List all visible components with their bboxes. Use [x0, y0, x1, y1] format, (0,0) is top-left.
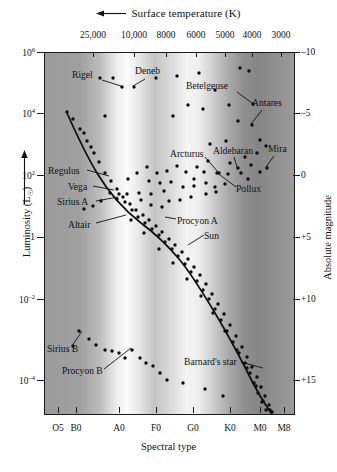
star-data-point: [169, 180, 172, 183]
star-data-point: [103, 114, 106, 117]
magnitude-tick-label: –5: [301, 108, 311, 118]
temperature-tick-label: 8000: [157, 30, 176, 40]
star-data-point: [250, 123, 253, 126]
magnitude-tick-mark: [293, 299, 300, 300]
annotation-vega: Vega: [68, 181, 87, 192]
magnitude-tick-label: +15: [301, 375, 316, 385]
star-data-point: [247, 69, 250, 72]
star-data-point: [158, 181, 161, 184]
star-data-point: [129, 218, 132, 221]
star-data-point: [202, 170, 205, 173]
star-data-point: [216, 302, 219, 305]
star-data-point: [145, 165, 148, 168]
temperature-tick-mark: [196, 52, 197, 57]
star-data-point: [206, 159, 209, 162]
star-data-point: [186, 103, 189, 106]
temperature-tick-label: 6000: [187, 30, 206, 40]
temperature-tick-label: 4000: [243, 30, 262, 40]
magnitude-tick-label: –10: [301, 47, 315, 57]
star-data-point: [195, 165, 198, 168]
star-data-point: [111, 76, 114, 79]
star-data-point: [167, 237, 170, 240]
star-data-point: [160, 230, 163, 233]
star-data-point: [197, 71, 200, 74]
star-data-point: [121, 195, 124, 198]
star-data-point: [123, 356, 126, 359]
y-axis-label-close: ): [21, 187, 32, 191]
luminosity-tick-mark: [37, 237, 44, 238]
star-data-point: [97, 160, 100, 163]
star-data-point: [226, 172, 229, 175]
star-data-point: [144, 361, 147, 364]
star-data-point: [204, 282, 207, 285]
magnitude-tick-mark: [293, 175, 300, 176]
star-data-point: [138, 356, 141, 359]
spectral-tick-mark: [58, 407, 59, 413]
star-data-point: [109, 179, 112, 182]
star-data-point: [82, 131, 85, 134]
star-data-point: [238, 66, 241, 69]
star-data-point: [171, 261, 174, 264]
annotation-arcturus: Arcturus: [170, 148, 204, 159]
left-arrow-icon: [96, 9, 126, 18]
annotation-sun: Sun: [204, 230, 219, 241]
star-data-point: [78, 127, 81, 130]
star-data-point: [240, 345, 243, 348]
star-data-point: [204, 192, 207, 195]
luminosity-tick-mark: [37, 52, 44, 53]
star-data-point: [141, 213, 144, 216]
star-data-point: [128, 202, 131, 205]
star-data-point: [157, 247, 160, 250]
temperature-tick-label: 25,000: [80, 30, 106, 40]
star-data-point: [213, 185, 216, 188]
spectral-tick-label: M0: [253, 423, 266, 433]
star-data-point: [135, 171, 138, 174]
star-data-point: [255, 375, 258, 378]
star-data-point: [228, 323, 231, 326]
spectral-tick-label: F0: [151, 423, 161, 433]
temperature-tick-mark: [134, 52, 135, 57]
magnitude-tick-mark: [293, 380, 300, 381]
star-data-point: [221, 394, 224, 397]
spectral-tick-mark: [230, 407, 231, 413]
star-data-point: [151, 364, 154, 367]
y-axis-label: Luminosity (L☉): [21, 147, 35, 297]
star-data-point: [249, 163, 252, 166]
spectral-tick-mark: [76, 407, 77, 413]
star-data-point: [94, 343, 97, 346]
spectral-tick-label: K0: [224, 423, 236, 433]
star-data-point: [82, 207, 85, 210]
star-data-point: [210, 292, 213, 295]
star-data-point: [181, 185, 184, 188]
star-data-point: [110, 349, 113, 352]
magnitude-tick-label: +5: [301, 232, 311, 242]
annotation-deneb: Deneb: [135, 65, 160, 76]
top-axis-title: Surface temperature (K): [0, 6, 337, 19]
star-data-point: [154, 76, 157, 79]
star-data-point: [134, 208, 137, 211]
star-data-point: [215, 171, 218, 174]
star-data-point: [92, 151, 95, 154]
star-data-point: [184, 170, 187, 173]
star-data-point: [147, 218, 150, 221]
star-data-point: [160, 205, 163, 208]
annotation-procyon-b: Procyon B: [62, 365, 103, 376]
star-data-point: [267, 403, 270, 406]
star-data-point: [77, 329, 80, 332]
star-data-point: [99, 199, 102, 202]
star-data-point: [192, 177, 195, 180]
star-data-point: [199, 294, 202, 297]
y2-axis-label: Absolute magnitude: [322, 158, 333, 318]
star-data-point: [142, 231, 145, 234]
x-axis-label: Spectral type: [0, 441, 337, 452]
star-data-point: [126, 177, 129, 180]
magnitude-tick-mark: [293, 113, 300, 114]
spectral-tick-mark: [156, 407, 157, 413]
star-data-point: [125, 192, 128, 195]
star-data-point: [117, 351, 120, 354]
star-data-point: [130, 208, 133, 211]
annotation-sirius-a: Sirius A: [57, 196, 88, 207]
star-data-point: [204, 181, 207, 184]
star-data-point: [250, 365, 253, 368]
star-data-point: [258, 170, 261, 173]
